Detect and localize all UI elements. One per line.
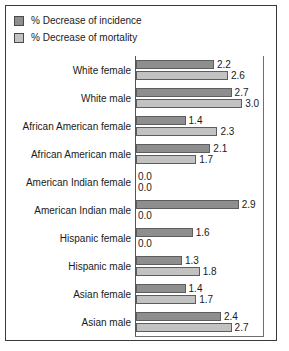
bar-mortality: 1.7 [136, 155, 276, 164]
bar-rect-mortality [136, 127, 217, 136]
bar-value-label: 1.6 [196, 226, 210, 239]
bar-row: African American female1.42.3 [6, 112, 276, 140]
category-label: Hispanic female [6, 224, 131, 252]
bar-rect-incidence [136, 200, 239, 209]
bar-value-label: 3.0 [245, 97, 259, 110]
bar-incidence: 1.6 [136, 228, 276, 237]
bar-incidence: 0.0 [136, 172, 276, 181]
bar-value-label: 0.0 [138, 181, 152, 194]
category-label: African American female [6, 112, 131, 140]
bar-group: 2.22.6 [136, 56, 276, 84]
legend-swatch-incidence [14, 16, 24, 26]
bar-rect-incidence [136, 88, 232, 97]
bar-value-label: 2.1 [213, 142, 227, 155]
bar-group: 1.60.0 [136, 224, 276, 252]
category-label: African American male [6, 140, 131, 168]
bar-mortality: 2.7 [136, 323, 276, 332]
bar-mortality: 0.0 [136, 239, 276, 248]
bar-row: American Indian male2.90.0 [6, 196, 276, 224]
bar-value-label: 1.7 [199, 153, 213, 166]
bar-row: American Indian female0.00.0 [6, 168, 276, 196]
bar-value-label: 2.7 [235, 321, 249, 334]
plot-bottom-border [135, 336, 264, 337]
bar-group: 2.90.0 [136, 196, 276, 224]
bar-value-label: 2.2 [217, 58, 231, 71]
bar-rect-incidence [136, 284, 186, 293]
bar-group: 1.41.7 [136, 280, 276, 308]
bar-mortality: 3.0 [136, 99, 276, 108]
bar-value-label: 2.9 [242, 198, 256, 211]
bar-incidence: 1.4 [136, 116, 276, 125]
bar-rect-incidence [136, 256, 182, 265]
bar-row: Asian male2.42.7 [6, 308, 276, 336]
bar-group: 2.11.7 [136, 140, 276, 168]
category-label: White male [6, 84, 131, 112]
bar-value-label: 1.8 [203, 265, 217, 278]
bar-value-label: 2.3 [220, 125, 234, 138]
category-label: Asian female [6, 280, 131, 308]
bar-row: Hispanic female1.60.0 [6, 224, 276, 252]
category-label: American Indian female [6, 168, 131, 196]
bar-incidence: 2.4 [136, 312, 276, 321]
legend-item-incidence: % Decrease of incidence [14, 12, 244, 29]
legend-swatch-mortality [14, 33, 24, 43]
chart-figure: % Decrease of incidence % Decrease of mo… [5, 5, 277, 341]
bar-value-label: 0.0 [138, 209, 152, 222]
bar-value-label: 1.3 [185, 254, 199, 267]
bar-row: Asian female1.41.7 [6, 280, 276, 308]
bar-value-label: 2.6 [231, 69, 245, 82]
bar-incidence: 2.1 [136, 144, 276, 153]
bar-rect-mortality [136, 323, 232, 332]
bar-value-label: 1.4 [189, 114, 203, 127]
bar-group: 2.73.0 [136, 84, 276, 112]
category-label: American Indian male [6, 196, 131, 224]
bar-group: 2.42.7 [136, 308, 276, 336]
legend-label-mortality: % Decrease of mortality [31, 33, 137, 43]
plot-area: White female2.22.6White male2.73.0Africa… [6, 53, 276, 341]
bar-rect-incidence [136, 144, 210, 153]
bar-row: African American male2.11.7 [6, 140, 276, 168]
legend-item-mortality: % Decrease of mortality [14, 29, 244, 46]
bar-value-label: 1.7 [199, 293, 213, 306]
category-label: Hispanic male [6, 252, 131, 280]
bar-mortality: 2.6 [136, 71, 276, 80]
bar-group: 1.31.8 [136, 252, 276, 280]
bar-mortality: 2.3 [136, 127, 276, 136]
bar-incidence: 2.9 [136, 200, 276, 209]
bar-group: 1.42.3 [136, 112, 276, 140]
bar-mortality: 1.8 [136, 267, 276, 276]
bar-row: Hispanic male1.31.8 [6, 252, 276, 280]
bar-rect-mortality [136, 71, 228, 80]
bar-value-label: 0.0 [138, 237, 152, 250]
bar-incidence: 2.2 [136, 60, 276, 69]
bar-rect-incidence [136, 312, 221, 321]
chart-legend: % Decrease of incidence % Decrease of mo… [14, 12, 244, 46]
bar-group: 0.00.0 [136, 168, 276, 196]
bar-mortality: 0.0 [136, 183, 276, 192]
bar-incidence: 1.3 [136, 256, 276, 265]
bar-rect-incidence [136, 60, 214, 69]
bar-rect-incidence [136, 116, 186, 125]
bar-rect-mortality [136, 295, 196, 304]
bar-rect-incidence [136, 228, 193, 237]
bar-mortality: 1.7 [136, 295, 276, 304]
category-label: Asian male [6, 308, 131, 336]
legend-label-incidence: % Decrease of incidence [31, 16, 142, 26]
bar-row: White female2.22.6 [6, 56, 276, 84]
bar-incidence: 2.7 [136, 88, 276, 97]
bar-rect-mortality [136, 99, 242, 108]
bar-rect-mortality [136, 155, 196, 164]
category-label: White female [6, 56, 131, 84]
bar-rect-mortality [136, 267, 200, 276]
bar-incidence: 1.4 [136, 284, 276, 293]
bar-row: White male2.73.0 [6, 84, 276, 112]
bar-mortality: 0.0 [136, 211, 276, 220]
